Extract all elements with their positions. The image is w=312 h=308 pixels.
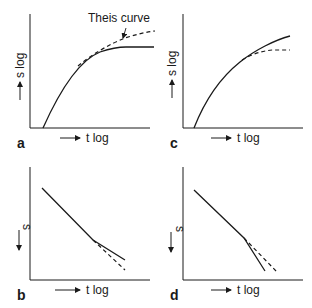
solid-line: [42, 188, 125, 260]
x-axis-label: t log: [211, 283, 260, 297]
annotation-label: Theis curve: [88, 11, 150, 25]
svg-text:t log: t log: [237, 131, 260, 145]
panel-c: s log c t log: [165, 14, 303, 151]
solid-curve: [43, 47, 154, 128]
y-axis-label: s: [171, 226, 187, 252]
y-axis-label: s: [19, 224, 34, 250]
y-axis-label: s log: [165, 51, 179, 98]
dashed-line: [93, 240, 125, 270]
x-axis-label: t log: [55, 283, 109, 297]
panel-letter: a: [17, 135, 25, 151]
svg-text:t log: t log: [86, 283, 109, 297]
solid-line: [194, 190, 265, 271]
svg-text:t log: t log: [86, 131, 109, 145]
figure-canvas: Theis curve s log a t log s log c t log: [0, 0, 312, 308]
dashed-line: [244, 238, 277, 272]
annotation-pointer: [123, 28, 126, 38]
panel-letter: b: [17, 287, 26, 303]
theis-curve-dashed: [78, 31, 155, 66]
y-axis-label: s log: [13, 53, 27, 100]
panel-letter: c: [170, 135, 178, 151]
panel-letter: d: [170, 287, 179, 303]
panel-d: s d t log: [170, 167, 303, 303]
panel-b: s b t log: [17, 167, 150, 303]
x-axis-label: t log: [211, 131, 260, 145]
panel-a: Theis curve s log a t log: [13, 11, 155, 151]
svg-text:s: s: [173, 226, 187, 232]
svg-text:s log: s log: [13, 53, 27, 78]
x-axis-label: t log: [60, 131, 109, 145]
svg-text:s: s: [20, 224, 34, 230]
svg-text:s log: s log: [165, 51, 179, 76]
svg-text:t log: t log: [237, 283, 260, 297]
